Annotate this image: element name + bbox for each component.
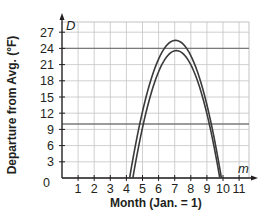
- x-tick-label: 3: [107, 182, 114, 196]
- x-tick-label: 5: [139, 182, 146, 196]
- x-variable-label: m: [238, 161, 249, 176]
- chart-canvas: 03691215182124271234567891011Dm: [0, 0, 265, 221]
- x-tick-label: 1: [75, 182, 82, 196]
- x-axis-arrow-icon: [251, 176, 258, 181]
- y-tick-label: 27: [40, 26, 54, 40]
- x-axis-label: Month (Jan. = 1): [110, 196, 202, 210]
- x-tick-label: 8: [187, 182, 194, 196]
- x-tick-label: 10: [216, 182, 230, 196]
- x-tick-label: 4: [123, 182, 130, 196]
- y-tick-label: 3: [47, 155, 54, 169]
- x-tick-label: 6: [155, 182, 162, 196]
- y-tick-label: 12: [40, 107, 54, 121]
- y-tick-label: 6: [47, 139, 54, 153]
- grid-border: [62, 22, 249, 178]
- y-variable-label: D: [66, 18, 75, 33]
- y-tick-label: 24: [40, 42, 54, 56]
- outer-parabola-curve: [130, 40, 222, 178]
- y-tick-label: 21: [40, 58, 54, 72]
- y-tick-label: 18: [40, 74, 54, 88]
- y-tick-label: 15: [40, 91, 54, 105]
- y-tick-label: 0: [43, 176, 50, 190]
- x-tick-label: 2: [91, 182, 98, 196]
- y-tick-label: 9: [47, 123, 54, 137]
- y-axis-arrow-icon: [60, 13, 65, 20]
- x-tick-label: 9: [203, 182, 210, 196]
- x-tick-label: 11: [233, 182, 246, 196]
- y-axis-label-text: Departure from Avg. (°F): [5, 36, 19, 175]
- x-tick-label: 7: [171, 182, 178, 196]
- y-axis-label: Departure from Avg. (°F): [2, 30, 22, 180]
